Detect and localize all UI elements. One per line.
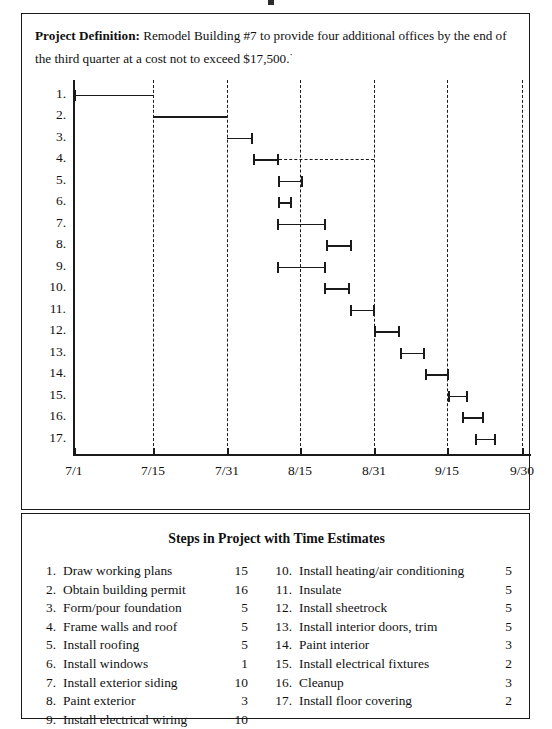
step-number: 17. [270,692,292,711]
x-axis-line [73,454,531,456]
step-row: 12.Install sheetrock5 [270,599,520,618]
step-number: 14. [270,636,292,655]
row-label-14: 14. [36,365,66,381]
step-duration-days: 2 [490,655,512,674]
x-tick-8-31 [374,448,376,456]
gridline-8-31 [374,80,375,456]
step-row: 17.Install floor covering2 [270,692,520,711]
cut-off-title-glyph [268,0,274,5]
row-label-5: 5. [36,172,66,188]
x-tick-9-30 [522,448,524,456]
gantt-slack-4 [279,159,374,160]
x-tick-8-15 [300,448,302,456]
step-number: 5. [34,636,56,655]
step-duration-days: 10 [226,674,248,693]
gantt-bar-3[interactable] [227,138,253,140]
step-number: 16. [270,674,292,693]
step-duration-days: 5 [490,618,512,637]
steps-table-panel: Steps in Project with Time Estimates 1.D… [21,513,530,719]
step-name: Form/pour foundation [63,599,182,618]
gantt-bar-15[interactable] [448,396,468,398]
step-name: Install exterior siding [63,674,178,693]
step-duration-days: 3 [490,636,512,655]
x-tick-7-31 [227,448,229,456]
step-number: 2. [34,581,56,600]
row-label-9: 9. [36,258,66,274]
step-name: Install floor covering [299,692,412,711]
gantt-bar-11[interactable] [350,310,375,312]
x-axis-label-7-15: 7/15 [130,463,176,479]
gantt-plot-area: 7/17/157/318/158/319/159/30 1.2.3.4.5.6.… [22,14,531,511]
gantt-bar-14[interactable] [425,374,449,376]
step-row: 14.Paint interior3 [270,636,520,655]
gantt-bar-17[interactable] [475,439,496,441]
x-tick-9-15 [447,448,449,456]
x-axis-label-9-15: 9/15 [424,463,470,479]
gantt-bar-5[interactable] [278,181,303,183]
row-label-4: 4. [36,150,66,166]
step-duration-days: 16 [226,581,248,600]
row-label-12: 12. [36,322,66,338]
step-row: 2.Obtain building permit16 [34,581,270,600]
step-number: 7. [34,674,56,693]
gridline-7-15 [153,80,154,456]
gantt-bar-12[interactable] [374,331,400,333]
step-name: Install electrical fixtures [299,655,429,674]
step-name: Install roofing [63,636,139,655]
step-number: 10. [270,562,292,581]
gantt-bar-1[interactable] [74,95,153,97]
row-label-10: 10. [36,279,66,295]
steps-column-left: 1.Draw working plans152.Obtain building … [34,562,270,729]
step-duration-days: 3 [226,692,248,711]
gantt-bar-13[interactable] [400,353,425,355]
step-duration-days: 10 [226,711,248,729]
step-name: Obtain building permit [63,581,186,600]
step-name: Paint interior [299,636,369,655]
gantt-bar-2[interactable] [153,116,227,118]
step-name: Insulate [299,581,341,600]
step-row: 13.Install interior doors, trim5 [270,618,520,637]
gantt-bar-16[interactable] [462,417,484,419]
gantt-bar-9[interactable] [277,267,326,269]
x-axis-label-7-1: 7/1 [51,463,97,479]
gantt-bar-4[interactable] [253,159,279,161]
gantt-bar-7[interactable] [277,224,326,226]
step-number: 11. [270,581,292,600]
step-name: Frame walls and roof [63,618,177,637]
step-name: Install electrical wiring [63,711,187,729]
step-duration-days: 15 [226,562,248,581]
step-name: Paint exterior [63,692,136,711]
row-label-6: 6. [36,193,66,209]
row-label-15: 15. [36,387,66,403]
x-axis-label-9-30: 9/30 [499,463,545,479]
step-row: 15.Install electrical fixtures2 [270,655,520,674]
step-name: Install heating/air conditioning [299,562,464,581]
step-name: Install sheetrock [299,599,387,618]
x-tick-7-15 [153,448,155,456]
x-axis-label-8-31: 8/31 [351,463,397,479]
gantt-bar-6[interactable] [278,202,292,204]
row-label-1: 1. [36,86,66,102]
gantt-bar-10[interactable] [324,288,350,290]
step-row: 4.Frame walls and roof5 [34,618,270,637]
row-label-13: 13. [36,344,66,360]
steps-column-right: 10.Install heating/air conditioning511.I… [270,562,520,711]
step-number: 4. [34,618,56,637]
step-name: Draw working plans [63,562,172,581]
step-row: 16.Cleanup3 [270,674,520,693]
y-axis-line [73,80,75,454]
row-label-2: 2. [36,107,66,123]
gantt-chart-panel: Project Definition: Remodel Building #7 … [21,13,530,510]
step-number: 3. [34,599,56,618]
row-label-8: 8. [36,236,66,252]
row-label-3: 3. [36,129,66,145]
gantt-bar-8[interactable] [326,245,352,247]
step-number: 12. [270,599,292,618]
gridline-9-30 [522,80,523,456]
row-label-11: 11. [36,301,66,317]
step-duration-days: 3 [490,674,512,693]
x-axis-label-8-15: 8/15 [277,463,323,479]
step-duration-days: 5 [490,599,512,618]
step-duration-days: 5 [490,581,512,600]
step-number: 6. [34,655,56,674]
